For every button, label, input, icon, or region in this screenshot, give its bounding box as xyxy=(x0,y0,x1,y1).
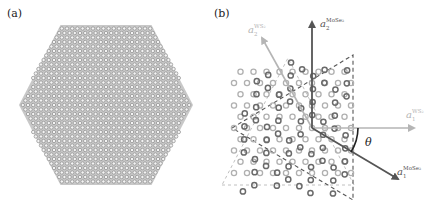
panel-b: (b) θa2MoSe₂a2WS₂a1WS₂a1MoSe₂ xyxy=(214,0,428,208)
label-a1-ws2: a1WS₂ xyxy=(406,108,424,122)
label-a2-mose2: a2MoSe₂ xyxy=(320,17,344,31)
svg-text:MoSe₂: MoSe₂ xyxy=(403,165,421,171)
svg-text:WS₂: WS₂ xyxy=(412,108,424,114)
vector-a2-ws2 xyxy=(262,38,312,128)
lattice-light xyxy=(231,69,353,176)
lattice-rings xyxy=(19,25,193,185)
panel-a: (a) xyxy=(0,0,214,208)
svg-text:1: 1 xyxy=(412,116,416,122)
theta-label: θ xyxy=(365,136,372,149)
hexagonal-flake xyxy=(0,0,214,208)
twisted-lattice-diagram: θa2MoSe₂a2WS₂a1WS₂a1MoSe₂ xyxy=(214,0,428,208)
svg-text:2: 2 xyxy=(254,31,258,37)
label-a1-mose2: a1MoSe₂ xyxy=(397,165,421,179)
label-a2-ws2: a2WS₂ xyxy=(248,23,266,37)
svg-text:2: 2 xyxy=(326,25,330,31)
svg-text:WS₂: WS₂ xyxy=(254,23,266,29)
svg-text:1: 1 xyxy=(403,173,407,179)
svg-text:MoSe₂: MoSe₂ xyxy=(326,17,344,23)
